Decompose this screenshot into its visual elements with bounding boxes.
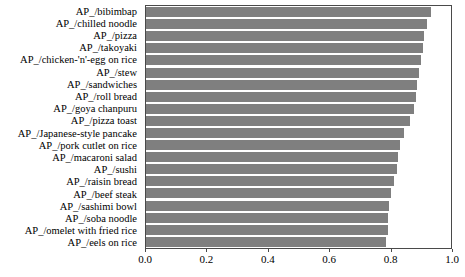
- category-label: AP_/pizza: [93, 30, 137, 41]
- category-label: AP_/omelet with fried rice: [25, 225, 137, 236]
- bar-series: [146, 6, 451, 248]
- category-label: AP_/pork cutlet on rice: [39, 140, 137, 151]
- category-label: AP_/chilled noodle: [56, 18, 137, 29]
- category-label-row: AP_/chicken-'n'-egg on rice: [0, 54, 141, 66]
- category-label-row: AP_/omelet with fried rice: [0, 225, 141, 237]
- category-label: AP_/stew: [96, 67, 137, 78]
- bar: [146, 80, 417, 90]
- category-label: AP_/Japanese-style pancake: [18, 128, 137, 139]
- category-label: AP_/eels on rice: [68, 237, 137, 248]
- bar: [146, 7, 431, 17]
- x-axis: 0.00.20.40.60.81.0: [145, 249, 452, 275]
- bar-row: [146, 127, 451, 139]
- bar-row: [146, 30, 451, 42]
- bar: [146, 213, 388, 223]
- category-label-row: AP_/soba noodle: [0, 212, 141, 224]
- bar-row: [146, 91, 451, 103]
- chart-figure: AP_/bibimbapAP_/chilled noodleAP_/pizzaA…: [0, 0, 465, 277]
- category-label-row: AP_/eels on rice: [0, 237, 141, 249]
- bar: [146, 43, 423, 53]
- x-tick-label: 0.6: [322, 253, 336, 265]
- category-label: AP_/soba noodle: [65, 213, 137, 224]
- bar: [146, 188, 391, 198]
- x-tick-mark: [452, 249, 453, 252]
- category-label-row: AP_/pork cutlet on rice: [0, 139, 141, 151]
- category-label-row: AP_/chilled noodle: [0, 17, 141, 29]
- x-tick-mark: [268, 249, 269, 252]
- x-tick-label: 0.0: [138, 253, 152, 265]
- category-label: AP_/takoyaki: [79, 42, 137, 53]
- bar: [146, 68, 419, 78]
- category-label-row: AP_/beef steak: [0, 188, 141, 200]
- category-label-row: AP_/roll bread: [0, 90, 141, 102]
- bar-row: [146, 175, 451, 187]
- category-label-row: AP_/sashimi bowl: [0, 200, 141, 212]
- category-label: AP_/chicken-'n'-egg on rice: [20, 54, 137, 65]
- bar-row: [146, 163, 451, 175]
- bar-row: [146, 224, 451, 236]
- bar-row: [146, 42, 451, 54]
- x-tick-mark: [329, 249, 330, 252]
- category-label: AP_/beef steak: [73, 189, 137, 200]
- category-label-row: AP_/goya chanpuru: [0, 103, 141, 115]
- bar-row: [146, 54, 451, 66]
- bar-row: [146, 18, 451, 30]
- bar-row: [146, 115, 451, 127]
- bar-row: [146, 187, 451, 199]
- bar-row: [146, 103, 451, 115]
- bar: [146, 128, 404, 138]
- x-tick-label: 1.0: [445, 253, 459, 265]
- bar: [146, 152, 398, 162]
- bar: [146, 225, 388, 235]
- bar: [146, 92, 416, 102]
- category-label: AP_/goya chanpuru: [53, 103, 137, 114]
- bar: [146, 237, 386, 247]
- category-label: AP_/sandwiches: [67, 79, 137, 90]
- bar: [146, 140, 400, 150]
- category-label: AP_/bibimbap: [76, 6, 137, 17]
- plot-area: [145, 5, 452, 249]
- bar-row: [146, 212, 451, 224]
- category-label-row: AP_/Japanese-style pancake: [0, 127, 141, 139]
- x-tick-mark: [206, 249, 207, 252]
- bar: [146, 104, 414, 114]
- bar-row: [146, 200, 451, 212]
- x-tick-mark: [145, 249, 146, 252]
- category-label-row: AP_/pizza toast: [0, 115, 141, 127]
- bar: [146, 116, 410, 126]
- x-tick-mark: [391, 249, 392, 252]
- category-label: AP_/macaroni salad: [52, 152, 137, 163]
- category-axis-labels: AP_/bibimbapAP_/chilled noodleAP_/pizzaA…: [0, 5, 141, 249]
- category-label: AP_/sashimi bowl: [60, 201, 137, 212]
- bar-row: [146, 151, 451, 163]
- x-tick-label: 0.4: [261, 253, 275, 265]
- category-label-row: AP_/pizza: [0, 29, 141, 41]
- bar: [146, 176, 394, 186]
- x-tick-label: 0.2: [200, 253, 214, 265]
- bar-row: [146, 66, 451, 78]
- category-label-row: AP_/raisin bread: [0, 176, 141, 188]
- bar: [146, 201, 389, 211]
- category-label: AP_/roll bread: [75, 91, 137, 102]
- category-label: AP_/sushi: [94, 164, 137, 175]
- category-label: AP_/raisin bread: [66, 176, 137, 187]
- bar-row: [146, 79, 451, 91]
- x-tick-label: 0.8: [384, 253, 398, 265]
- bar: [146, 19, 427, 29]
- bar-row: [146, 6, 451, 18]
- bar-row: [146, 139, 451, 151]
- bar: [146, 31, 424, 41]
- bar: [146, 164, 397, 174]
- category-label-row: AP_/takoyaki: [0, 42, 141, 54]
- category-label-row: AP_/sushi: [0, 164, 141, 176]
- category-label-row: AP_/stew: [0, 66, 141, 78]
- bar-row: [146, 236, 451, 248]
- bar: [146, 55, 421, 65]
- category-label-row: AP_/bibimbap: [0, 5, 141, 17]
- category-label-row: AP_/macaroni salad: [0, 151, 141, 163]
- category-label: AP_/pizza toast: [71, 115, 137, 126]
- category-label-row: AP_/sandwiches: [0, 78, 141, 90]
